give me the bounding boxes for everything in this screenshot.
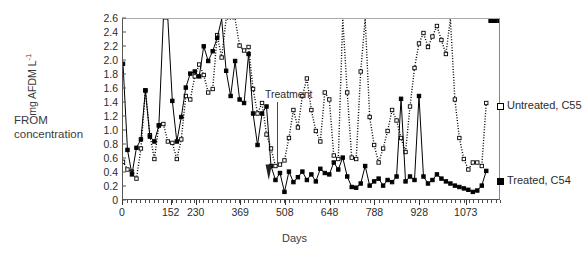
series-marker: [292, 180, 295, 183]
x-axis-major-tick: [419, 200, 420, 205]
series-marker: [278, 163, 281, 166]
x-axis-minor-tick: [253, 200, 254, 203]
y-axis-tick-label: 2.2: [92, 40, 118, 52]
series-marker: [126, 168, 129, 171]
x-axis-minor-tick: [230, 200, 231, 203]
series-marker: [480, 164, 483, 167]
x-axis-minor-tick: [154, 200, 155, 203]
x-axis-major-tick: [374, 200, 375, 205]
series-marker: [251, 112, 254, 115]
y-axis-tick-label: 1.8: [92, 68, 118, 80]
y-axis-tick-label: 0: [92, 194, 118, 206]
x-axis-tick-label: 1073: [454, 206, 477, 218]
series-marker: [256, 143, 259, 146]
x-axis-minor-tick: [428, 200, 429, 203]
series-marker: [399, 97, 402, 100]
y-axis-label: mg AFDM L-1: [24, 40, 38, 130]
series-marker: [153, 140, 156, 143]
x-axis-minor-tick: [442, 200, 443, 203]
series-marker: [184, 86, 187, 89]
x-axis-minor-tick: [289, 200, 290, 203]
series-marker: [220, 56, 223, 59]
y-axis-tick-mark: [122, 172, 126, 173]
x-axis-major-tick: [122, 200, 123, 205]
x-axis-minor-tick: [473, 200, 474, 203]
x-axis-minor-tick: [406, 200, 407, 203]
x-axis-minor-tick: [163, 200, 164, 203]
series-marker: [498, 19, 500, 22]
series-marker: [202, 45, 205, 48]
x-axis-minor-tick: [190, 200, 191, 203]
x-axis-minor-tick: [131, 200, 132, 203]
x-axis-minor-tick: [248, 200, 249, 203]
x-axis-tick-label: 928: [411, 206, 429, 218]
x-axis-minor-tick: [298, 200, 299, 203]
x-axis-minor-tick: [469, 200, 470, 203]
x-axis-minor-tick: [401, 200, 402, 203]
series-marker: [408, 105, 411, 108]
series-marker: [377, 161, 380, 164]
series-marker: [287, 170, 290, 173]
series-marker: [422, 175, 425, 178]
x-axis-major-tick: [466, 200, 467, 205]
series-marker: [166, 140, 169, 143]
series-marker: [314, 129, 317, 132]
y-axis-label-exponent: -1: [24, 54, 33, 61]
series-marker: [471, 161, 474, 164]
series-marker: [440, 177, 443, 180]
x-axis-minor-tick: [478, 200, 479, 203]
x-axis-minor-tick: [302, 200, 303, 203]
x-axis-minor-tick: [496, 200, 497, 203]
x-axis-minor-tick: [343, 200, 344, 203]
series-marker: [413, 66, 416, 69]
x-axis-minor-tick: [212, 200, 213, 203]
series-marker: [328, 173, 331, 176]
y-axis-tick-label: 2.4: [92, 26, 118, 38]
y-axis-tick-label: 1.4: [92, 96, 118, 108]
series-marker: [489, 19, 492, 22]
series-marker: [224, 69, 227, 72]
series-marker: [355, 157, 358, 160]
x-axis-minor-tick: [347, 200, 348, 203]
series-marker: [207, 59, 210, 62]
series-marker: [305, 178, 308, 181]
legend-item-treated: Treated, C54: [507, 174, 571, 186]
series-marker: [494, 19, 497, 22]
y-axis-tick-label: 2.6: [92, 12, 118, 24]
x-axis-minor-tick: [460, 200, 461, 203]
x-axis-minor-tick: [392, 200, 393, 203]
x-axis-minor-tick: [280, 200, 281, 203]
y-axis-tick-mark: [122, 116, 126, 117]
x-axis-minor-tick: [311, 200, 312, 203]
y-axis-tick-label: 2.0: [92, 54, 118, 66]
y-axis-tick-mark: [122, 186, 126, 187]
y-axis-tick-label: 0.6: [92, 152, 118, 164]
series-marker: [198, 75, 201, 78]
x-axis-major-tick: [240, 200, 241, 205]
series-marker: [377, 177, 380, 180]
series-marker: [238, 98, 241, 101]
y-axis-tick-label: 1.6: [92, 82, 118, 94]
series-marker: [130, 173, 133, 176]
y-axis-tick-mark: [122, 144, 126, 145]
series-marker: [332, 154, 335, 157]
series-marker: [135, 146, 138, 149]
series-marker: [332, 161, 335, 164]
x-axis-tick-label: 0: [119, 206, 125, 218]
series-marker: [305, 77, 308, 80]
y-axis-tick-mark: [122, 60, 126, 61]
series-marker: [278, 171, 281, 174]
x-axis-tick-label: 508: [276, 206, 294, 218]
series-marker: [413, 178, 416, 181]
x-axis-minor-tick: [266, 200, 267, 203]
y-axis-tick-label: 1.0: [92, 124, 118, 136]
series-marker: [193, 75, 196, 78]
series-marker: [175, 140, 178, 143]
series-marker: [395, 175, 398, 178]
series-marker: [386, 129, 389, 132]
series-marker: [435, 24, 438, 27]
series-marker: [381, 147, 384, 150]
series-marker: [390, 108, 393, 111]
x-axis-minor-tick: [293, 200, 294, 203]
treatment-annotation-label: Treatment: [265, 88, 312, 100]
